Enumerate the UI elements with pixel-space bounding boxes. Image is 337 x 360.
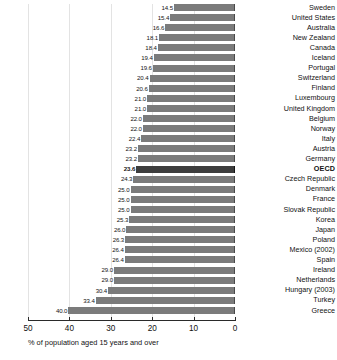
- bar-value-label: 30.4: [96, 286, 107, 295]
- bar: [153, 65, 235, 72]
- x-axis-tick: [235, 317, 236, 321]
- bar: [159, 34, 235, 41]
- bar: [147, 95, 235, 102]
- category-label: OECD: [314, 165, 335, 173]
- bar-row: 22.0: [28, 115, 235, 123]
- category-label: Czech Republic: [285, 175, 335, 183]
- bar-row: 29.0: [28, 277, 235, 285]
- bar-value-label: 21.0: [135, 104, 146, 113]
- bar: [170, 14, 235, 21]
- x-axis-tick: [28, 317, 29, 321]
- bar-row: 22.4: [28, 135, 235, 143]
- category-label: Hungary (2003): [285, 286, 335, 294]
- x-axis-tick: [194, 317, 195, 321]
- x-axis-title: % of population aged 15 years and over: [28, 338, 159, 348]
- category-label: Canada: [310, 44, 335, 52]
- category-label: Netherlands: [296, 276, 335, 284]
- x-axis-tick-label: 20: [148, 324, 157, 334]
- bar: [147, 105, 235, 112]
- bar: [131, 186, 236, 193]
- x-axis-tick-label: 0: [233, 324, 238, 334]
- x-axis-tick: [111, 317, 112, 321]
- bar-row: 25.0: [28, 206, 235, 214]
- category-label: Slovak Republic: [283, 206, 335, 214]
- x-axis-tick: [152, 317, 153, 321]
- category-label: Switzerland: [298, 74, 335, 82]
- category-label: Iceland: [312, 54, 335, 62]
- bar: [143, 125, 235, 132]
- x-axis-tick-label: 10: [189, 324, 198, 334]
- bar: [131, 196, 236, 203]
- x-axis-tick-label: 30: [106, 324, 115, 334]
- bar-value-label: 15.4: [158, 13, 169, 22]
- plot-area: 14.515.416.618.118.419.419.620.420.621.0…: [28, 4, 235, 317]
- bar-row: 26.0: [28, 226, 235, 234]
- bar-value-label: 25.0: [118, 195, 129, 204]
- category-label: United Kingdom: [284, 105, 335, 113]
- bar-value-label: 16.6: [153, 23, 164, 32]
- bar-value-label: 18.4: [145, 43, 156, 52]
- bar: [131, 206, 236, 213]
- bar-row: 19.6: [28, 65, 235, 73]
- bar: [138, 155, 235, 162]
- category-label: Sweden: [309, 4, 335, 12]
- category-labels: SwedenUnited StatesAustraliaNew ZealandC…: [240, 4, 336, 317]
- bar-rows: 14.515.416.618.118.419.419.620.420.621.0…: [28, 4, 235, 317]
- category-label: Poland: [313, 236, 335, 244]
- bar-value-label: 25.0: [118, 205, 129, 214]
- bar: [125, 256, 235, 263]
- category-label: Portugal: [308, 64, 335, 72]
- category-label: New Zealand: [293, 34, 335, 42]
- bar-value-label: 25.0: [118, 185, 129, 194]
- bar: [126, 226, 235, 233]
- category-label: Finland: [311, 84, 335, 92]
- category-label: Spain: [317, 256, 335, 264]
- bar-row: 18.1: [28, 34, 235, 42]
- bar-row: 19.4: [28, 54, 235, 62]
- bar: [108, 287, 235, 294]
- category-label: Korea: [316, 216, 335, 224]
- bar-value-label: 26.0: [114, 225, 125, 234]
- bar-value-label: 19.4: [141, 53, 152, 62]
- bar: [125, 236, 235, 243]
- bar: [114, 277, 235, 284]
- bar-value-label: 22.0: [130, 124, 141, 133]
- bar-row: 25.0: [28, 186, 235, 194]
- bar-value-label: 20.4: [137, 73, 148, 82]
- bar-value-label: 14.5: [162, 3, 173, 12]
- bar-row: 24.3: [28, 176, 235, 184]
- bar-row: 26.3: [28, 236, 235, 244]
- bar: [143, 115, 235, 122]
- bar-row: 40.0: [28, 307, 235, 315]
- bar: [133, 176, 235, 183]
- bar-row: 22.0: [28, 125, 235, 133]
- bar: [141, 135, 235, 142]
- bar-value-label: 40.0: [56, 306, 67, 315]
- bar-row: 14.5: [28, 4, 235, 12]
- bar-row: 23.2: [28, 145, 235, 153]
- bar-value-label: 22.4: [129, 134, 140, 143]
- category-label: Mexico (2002): [289, 246, 335, 254]
- bar-value-label: 20.6: [136, 84, 147, 93]
- category-label: Germany: [305, 155, 335, 163]
- bar-row: 23.6: [28, 166, 235, 174]
- category-label: Denmark: [306, 185, 335, 193]
- bar-row: 21.0: [28, 95, 235, 103]
- bar-row: 33.4: [28, 297, 235, 305]
- category-label: Ireland: [313, 266, 335, 274]
- bar-value-label: 23.2: [125, 154, 136, 163]
- bar-value-label: 23.2: [125, 144, 136, 153]
- bar-value-label: 19.6: [140, 63, 151, 72]
- bar: [150, 75, 235, 82]
- bar: [125, 246, 235, 253]
- bar-value-label: 26.4: [112, 255, 123, 264]
- category-label: Japan: [315, 226, 335, 234]
- bar-value-label: 22.0: [130, 114, 141, 123]
- category-label: Greece: [311, 307, 335, 315]
- bar: [149, 85, 235, 92]
- category-label: Luxembourg: [295, 94, 335, 102]
- category-label: Australia: [307, 24, 335, 32]
- category-label: Austria: [313, 145, 335, 153]
- bar-row: 15.4: [28, 14, 235, 22]
- bar-row: 26.4: [28, 246, 235, 254]
